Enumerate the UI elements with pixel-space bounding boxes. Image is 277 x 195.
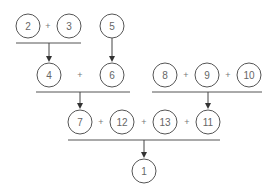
number-node-2: 2 — [16, 14, 40, 38]
number-node-11: 11 — [196, 110, 220, 134]
number-node-3: 3 — [57, 14, 81, 38]
number-node-4: 4 — [37, 63, 61, 87]
plus-sign: + — [77, 70, 82, 80]
node-label: 11 — [203, 117, 214, 128]
node-label: 9 — [204, 70, 210, 81]
sum-bars — [16, 43, 262, 140]
number-node-12: 12 — [110, 110, 134, 134]
node-label: 13 — [159, 117, 171, 128]
node-label: 8 — [162, 70, 168, 81]
plus-sign: + — [183, 70, 188, 80]
plus-sign: + — [184, 117, 189, 127]
node-label: 1 — [141, 166, 147, 177]
down-arrow-icon — [205, 92, 211, 109]
node-label: 2 — [25, 21, 31, 32]
node-label: 7 — [77, 117, 83, 128]
down-arrow-icon — [141, 140, 147, 158]
number-node-5: 5 — [100, 14, 124, 38]
number-node-7: 7 — [68, 110, 92, 134]
plus-sign: + — [98, 117, 103, 127]
number-node-1: 1 — [132, 159, 156, 183]
node-label: 10 — [243, 70, 255, 81]
node-label: 12 — [116, 117, 128, 128]
plus-sign: + — [141, 117, 146, 127]
plus-sign: + — [45, 21, 50, 31]
number-node-6: 6 — [100, 63, 124, 87]
number-node-13: 13 — [153, 110, 177, 134]
down-arrow-icon — [77, 92, 83, 109]
node-label: 6 — [109, 70, 115, 81]
number-node-10: 10 — [237, 63, 261, 87]
sum-tree-diagram: +++++++ 23546891071213111 — [0, 0, 277, 195]
node-label: 5 — [109, 21, 115, 32]
down-arrow-icon — [46, 43, 52, 62]
number-nodes: 23546891071213111 — [16, 14, 261, 183]
node-label: 3 — [66, 21, 72, 32]
node-label: 4 — [46, 70, 52, 81]
plus-sign: + — [225, 70, 230, 80]
number-node-9: 9 — [195, 63, 219, 87]
down-arrow-icon — [109, 38, 115, 62]
number-node-8: 8 — [153, 63, 177, 87]
